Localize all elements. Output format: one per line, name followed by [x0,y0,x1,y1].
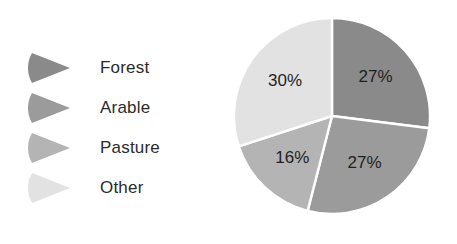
legend-item-forest: Forest [28,48,218,88]
pie-slices-group [234,18,430,214]
legend-item-pasture: Pasture [28,128,218,168]
legend-label-other: Other [100,178,144,198]
legend-item-arable: Arable [28,88,218,128]
pie-plot-area: 27%27%16%30% [232,16,432,216]
legend-wedge-icon-arable [28,91,72,125]
legend-wedge-icon-forest [28,51,72,85]
legend-label-forest: Forest [100,58,149,78]
pie-slice-label-other: 30% [268,71,302,90]
pie-svg: 27%27%16%30% [232,16,432,216]
pie-slice-label-forest: 27% [358,67,392,86]
pie-chart-figure: Forest Arable Pasture Other 27%27%16%30% [0,0,457,244]
legend-label-pasture: Pasture [100,138,160,158]
legend-item-other: Other [28,168,218,208]
pie-slice-label-arable: 27% [348,153,382,172]
chart-legend: Forest Arable Pasture Other [28,48,218,208]
legend-label-arable: Arable [100,98,150,118]
legend-wedge-icon-pasture [28,131,72,165]
pie-slice-label-pasture: 16% [275,148,309,167]
legend-wedge-icon-other [28,171,72,205]
